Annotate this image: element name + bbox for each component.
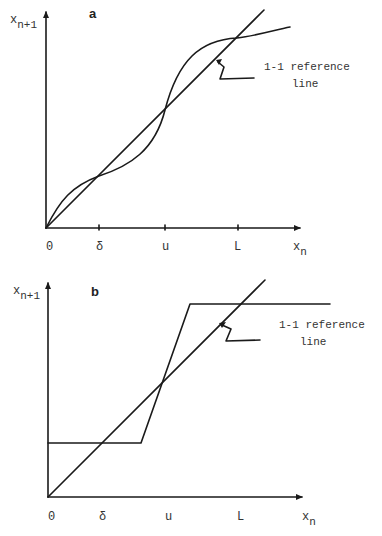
annotation-arrow: [222, 325, 260, 341]
x-axis-label: xn: [302, 510, 316, 528]
panel-label: a: [89, 6, 97, 21]
x-axis-label: xn: [293, 240, 307, 258]
y-axis-label: xn+1: [13, 284, 40, 302]
y-axis-label: xn+1: [10, 13, 37, 31]
panel-a: xn+1 a 1-1 reference line 0 δ u L xn: [10, 6, 350, 258]
tick-label-delta: δ: [99, 510, 106, 524]
tick-label-L: L: [237, 510, 244, 524]
panel-label: b: [91, 284, 99, 299]
annotation-line2: line: [292, 78, 318, 90]
tick-label-u: u: [162, 240, 169, 254]
reference-line: [46, 10, 264, 228]
annotation-arrow: [218, 62, 254, 79]
tick-label-u: u: [165, 510, 172, 524]
annotation-line2: line: [300, 336, 326, 348]
tick-label-0: 0: [48, 510, 55, 524]
map-curve: [46, 27, 290, 228]
annotation-line1: 1-1 reference: [279, 319, 365, 331]
diagram-canvas: xn+1 a 1-1 reference line 0 δ u L xn xn+…: [0, 0, 382, 536]
annotation-line1: 1-1 reference: [264, 61, 350, 73]
tick-label-L: L: [234, 240, 241, 254]
tick-label-delta: δ: [96, 240, 103, 254]
tick-label-0: 0: [46, 240, 53, 254]
panel-b: xn+1 b 1-1 reference line 0 δ u L xn: [13, 280, 365, 528]
reference-line: [48, 280, 265, 497]
